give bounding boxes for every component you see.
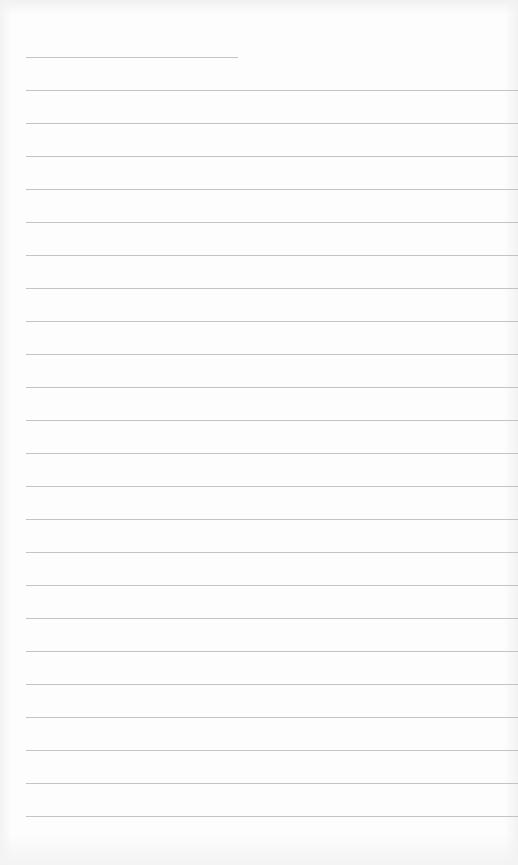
ruled-line	[26, 552, 518, 553]
ruled-line	[26, 618, 518, 619]
ruled-line	[26, 90, 518, 91]
ruled-line	[26, 519, 518, 520]
header-bleed-through	[0, 0, 518, 14]
ruled-line	[26, 585, 518, 586]
ruled-line	[26, 387, 518, 388]
ruled-line	[26, 321, 518, 322]
ruled-line	[26, 354, 518, 355]
ruled-line	[26, 420, 518, 421]
ruled-line	[26, 486, 518, 487]
ruled-line	[26, 717, 518, 718]
ruled-line	[26, 156, 518, 157]
ruled-line	[26, 651, 518, 652]
ruled-line	[26, 189, 518, 190]
ruled-line	[26, 222, 518, 223]
ruled-line	[26, 750, 518, 751]
ruled-line	[26, 816, 518, 817]
ruled-line	[26, 453, 518, 454]
ruled-line	[26, 288, 518, 289]
ruled-line	[26, 255, 518, 256]
ruled-line	[26, 684, 518, 685]
ruled-line	[26, 123, 518, 124]
ruled-line	[26, 783, 518, 784]
lined-paper-page	[0, 0, 518, 865]
short-title-rule	[26, 57, 238, 58]
